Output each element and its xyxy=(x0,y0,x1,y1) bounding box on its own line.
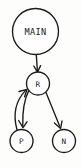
node-n[interactable]: N xyxy=(53,130,76,153)
edge-r-to-p xyxy=(19,91,29,128)
node-r-label: R xyxy=(36,80,41,89)
call-graph-diagram: MAIN R P N xyxy=(0,0,82,168)
node-p-label: P xyxy=(19,137,24,146)
node-p[interactable]: P xyxy=(10,130,33,153)
node-r[interactable]: R xyxy=(27,72,50,95)
node-main[interactable]: MAIN xyxy=(13,9,59,55)
edge-r-to-n-line xyxy=(46,92,60,126)
node-n-label: N xyxy=(62,137,67,146)
edge-main-to-r xyxy=(34,55,41,73)
edge-r-to-n xyxy=(46,92,62,129)
node-layer: MAIN R P N xyxy=(10,9,76,153)
edge-r-to-p-line xyxy=(23,91,29,126)
edge-main-to-r-line xyxy=(36,55,37,71)
node-main-label: MAIN xyxy=(24,27,46,37)
graph-canvas-svg: MAIN R P N xyxy=(0,0,82,168)
